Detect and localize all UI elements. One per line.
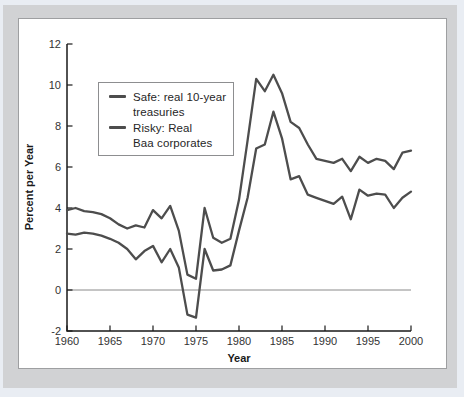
y-tick-label: 8 bbox=[55, 120, 61, 132]
y-tick-label: 10 bbox=[49, 79, 61, 91]
legend-safe-line2: treasuries bbox=[133, 105, 226, 120]
legend-label-safe: Safe: real 10-year treasuries bbox=[133, 90, 226, 119]
risky-line-swatch-icon bbox=[109, 126, 126, 129]
x-tick-label: 1995 bbox=[356, 335, 380, 347]
x-tick-label: 2000 bbox=[399, 335, 423, 347]
y-tick-label: 2 bbox=[55, 243, 61, 255]
y-axis-label: Percent per Year bbox=[23, 143, 35, 230]
legend-item-safe: Safe: real 10-year treasuries bbox=[109, 90, 229, 119]
legend-risky-line1: Risky: Real bbox=[133, 121, 212, 136]
chart-legend: Safe: real 10-year treasuries Risky: Rea… bbox=[98, 82, 234, 156]
x-axis-label: Year bbox=[227, 352, 251, 364]
chart-panel: Percent per Year Year -20246810121960196… bbox=[18, 18, 447, 369]
legend-label-risky: Risky: Real Baa corporates bbox=[133, 121, 212, 150]
y-tick-label: 12 bbox=[49, 38, 61, 50]
y-tick-label: 6 bbox=[55, 161, 61, 173]
y-tick-label: 4 bbox=[55, 202, 61, 214]
x-tick-label: 1985 bbox=[270, 335, 294, 347]
x-tick-label: 1975 bbox=[184, 335, 208, 347]
x-tick-label: 1960 bbox=[55, 335, 79, 347]
line-chart: Percent per Year Year -20246810121960196… bbox=[19, 19, 448, 370]
legend-item-risky: Risky: Real Baa corporates bbox=[109, 121, 229, 150]
x-tick-label: 1990 bbox=[313, 335, 337, 347]
x-tick-label: 1980 bbox=[227, 335, 251, 347]
legend-risky-line2: Baa corporates bbox=[133, 136, 212, 151]
x-tick-label: 1970 bbox=[141, 335, 165, 347]
legend-safe-line1: Safe: real 10-year bbox=[133, 90, 226, 105]
safe-line-swatch-icon bbox=[109, 95, 126, 98]
screenshot-root: { "figure": { "ylabel": "Percent per Yea… bbox=[0, 0, 464, 397]
x-tick-label: 1965 bbox=[98, 335, 122, 347]
y-tick-label: 0 bbox=[55, 284, 61, 296]
